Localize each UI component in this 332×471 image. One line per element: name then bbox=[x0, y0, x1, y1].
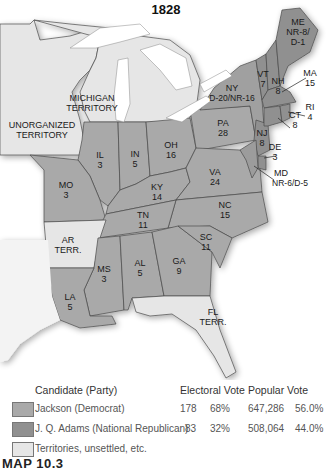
label-me-votes-2: D-1 bbox=[291, 37, 306, 47]
label-tn: TN bbox=[137, 210, 149, 220]
label-unorganized-2: TERRITORY bbox=[16, 130, 68, 140]
label-pa: PA bbox=[217, 118, 228, 128]
label-ar-1: AR bbox=[62, 235, 75, 245]
legend-row-jackson: Jackson (Democrat) 178 68% 647,286 56.0% bbox=[10, 400, 330, 420]
electoral-pct: 68% bbox=[210, 403, 230, 414]
label-ga-votes: 9 bbox=[176, 266, 181, 276]
label-de: DE bbox=[269, 142, 282, 152]
label-sc-votes: 11 bbox=[201, 242, 210, 252]
label-al-votes: 5 bbox=[137, 268, 142, 278]
label-la: LA bbox=[64, 292, 75, 302]
label-ct-votes: 8 bbox=[292, 120, 297, 130]
label-ky: KY bbox=[151, 182, 163, 192]
label-michigan-territory-2: TERRITORY bbox=[66, 103, 118, 113]
label-nh-votes: 8 bbox=[275, 86, 280, 96]
label-pa-votes: 28 bbox=[218, 128, 228, 138]
label-nc: NC bbox=[219, 200, 232, 210]
map-legend: Candidate (Party) Electoral Vote Popular… bbox=[10, 384, 330, 460]
label-tn-votes: 11 bbox=[138, 220, 147, 230]
label-me: ME bbox=[291, 17, 305, 27]
swatch-territories bbox=[12, 442, 34, 457]
label-ms: MS bbox=[97, 264, 111, 274]
label-md-votes: NR-6/D-5 bbox=[272, 178, 308, 188]
label-nh: NH bbox=[272, 76, 285, 86]
label-nj-votes: 8 bbox=[259, 138, 264, 148]
popular-pct: 44.0% bbox=[295, 423, 323, 434]
candidate-name: Jackson (Democrat) bbox=[35, 403, 124, 414]
label-nj: NJ bbox=[257, 128, 268, 138]
label-il: IL bbox=[96, 150, 104, 160]
label-oh-votes: 16 bbox=[166, 150, 176, 160]
label-ky-votes: 14 bbox=[152, 192, 162, 202]
label-va: VA bbox=[209, 167, 220, 177]
label-michigan-territory-1: MICHIGAN bbox=[70, 93, 115, 103]
label-al: AL bbox=[134, 258, 145, 268]
electoral-votes: 178 bbox=[180, 403, 197, 414]
label-ar-2: TERR. bbox=[55, 245, 82, 255]
label-ms-votes: 3 bbox=[101, 274, 106, 284]
label-il-votes: 3 bbox=[97, 160, 102, 170]
label-fl-2: TERR. bbox=[200, 317, 227, 327]
label-ny: NY bbox=[226, 83, 239, 93]
label-in-votes: 5 bbox=[132, 159, 137, 169]
election-map: MICHIGAN TERRITORY UNORGANIZED TERRITORY… bbox=[0, 0, 332, 380]
label-ga: GA bbox=[172, 256, 185, 266]
candidate-name: J. Q. Adams (National Republican) bbox=[35, 423, 188, 434]
legend-header: Candidate (Party) Electoral Vote Popular… bbox=[10, 384, 330, 400]
label-md: MD bbox=[274, 168, 288, 178]
label-me-votes: NR-8/ bbox=[286, 27, 310, 37]
header-popular: Popular Vote bbox=[248, 384, 308, 396]
label-nc-votes: 15 bbox=[220, 210, 230, 220]
label-la-votes: 5 bbox=[67, 302, 72, 312]
label-mo-votes: 3 bbox=[63, 190, 68, 200]
swatch-jackson bbox=[12, 402, 34, 417]
swatch-adams bbox=[12, 422, 34, 437]
label-ma: MA bbox=[303, 68, 317, 78]
state-ct bbox=[264, 106, 282, 126]
popular-pct: 56.0% bbox=[295, 403, 323, 414]
electoral-pct: 32% bbox=[210, 423, 230, 434]
popular-votes: 647,286 bbox=[248, 403, 284, 414]
label-de-votes: 3 bbox=[272, 152, 277, 162]
label-ma-votes: 15 bbox=[305, 78, 315, 88]
label-unorganized-1: UNORGANIZED bbox=[9, 120, 76, 130]
label-ct: CT bbox=[289, 110, 301, 120]
fl-territory bbox=[132, 296, 236, 378]
header-candidate: Candidate (Party) bbox=[35, 384, 117, 396]
label-ri: RI bbox=[306, 102, 315, 112]
label-va-votes: 24 bbox=[210, 177, 220, 187]
label-ri-votes: 4 bbox=[307, 112, 312, 122]
map-caption: MAP 10.3 bbox=[2, 456, 64, 471]
label-oh: OH bbox=[164, 140, 178, 150]
label-sc: SC bbox=[200, 232, 213, 242]
legend-row-adams: J. Q. Adams (National Republican) 83 32%… bbox=[10, 420, 330, 440]
label-in: IN bbox=[131, 149, 140, 159]
candidate-name: Territories, unsettled, etc. bbox=[35, 443, 147, 454]
popular-votes: 508,064 bbox=[248, 423, 284, 434]
electoral-votes: 83 bbox=[185, 423, 196, 434]
label-fl-1: FL bbox=[208, 307, 219, 317]
label-ny-votes: D-20/NR-16 bbox=[209, 93, 255, 103]
label-vt: VT bbox=[257, 69, 269, 79]
label-vt-votes: 7 bbox=[260, 79, 265, 89]
label-mo: MO bbox=[59, 180, 74, 190]
header-electoral: Electoral Vote bbox=[180, 384, 245, 396]
